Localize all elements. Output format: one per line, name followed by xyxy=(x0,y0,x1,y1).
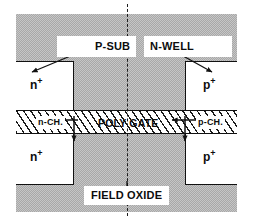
p-channel-leader-line xyxy=(172,116,196,141)
label-p-plus-bottom-superscript: + xyxy=(210,148,215,158)
label-field-oxide: FIELD OXIDE xyxy=(84,186,169,205)
label-p-plus-bottom: p+ xyxy=(203,151,216,163)
cmos-cross-section-figure: P-SUB N-WELL POLY GATE FIELD OXIDE n-CH.… xyxy=(0,0,253,220)
label-p-sub: P-SUB xyxy=(57,36,136,57)
label-n-plus-top-superscript: + xyxy=(37,76,42,86)
label-p-plus-top: p+ xyxy=(203,79,216,91)
label-poly-gate: POLY GATE xyxy=(94,115,163,132)
label-n-channel: n-CH. xyxy=(36,116,65,129)
label-p-channel: p-CH. xyxy=(196,116,225,129)
label-n-plus-bottom-superscript: + xyxy=(37,148,42,158)
label-p-plus-top-superscript: + xyxy=(210,76,215,86)
label-n-plus-bottom: n+ xyxy=(30,151,43,163)
label-n-plus-top: n+ xyxy=(30,79,43,91)
label-n-well: N-WELL xyxy=(144,36,232,57)
